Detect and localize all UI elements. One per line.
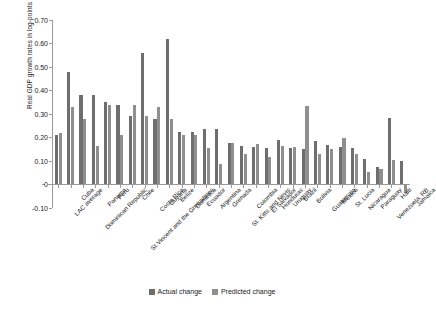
y-tick-label: -0.10 bbox=[14, 204, 48, 211]
bar bbox=[116, 105, 119, 184]
bar bbox=[367, 172, 370, 184]
bar bbox=[145, 116, 148, 184]
bar bbox=[277, 140, 280, 184]
bar bbox=[240, 146, 243, 184]
bar bbox=[400, 161, 403, 184]
legend-item: Predicted change bbox=[212, 288, 275, 295]
bar bbox=[363, 159, 366, 184]
bar bbox=[55, 135, 58, 184]
bar bbox=[293, 147, 296, 184]
bar-group bbox=[289, 20, 296, 185]
bar bbox=[281, 146, 284, 184]
bar bbox=[305, 106, 308, 184]
bar bbox=[67, 72, 70, 184]
y-tick-label: 0.60 bbox=[14, 40, 48, 47]
y-tick-label: 0.20 bbox=[14, 134, 48, 141]
bar bbox=[157, 107, 160, 184]
bar bbox=[252, 147, 255, 184]
bar bbox=[302, 149, 305, 184]
bar-group bbox=[191, 20, 198, 185]
bar-group bbox=[302, 20, 309, 185]
bar-group bbox=[363, 20, 370, 185]
bar-group bbox=[252, 20, 259, 185]
bar bbox=[59, 133, 62, 184]
bar bbox=[388, 118, 391, 184]
bar bbox=[231, 143, 234, 184]
bar bbox=[326, 145, 329, 184]
bar bbox=[120, 135, 123, 184]
bar-group bbox=[351, 20, 358, 185]
y-tick-label: 0.40 bbox=[14, 87, 48, 94]
bar bbox=[330, 149, 333, 184]
bar bbox=[194, 135, 197, 184]
bar bbox=[289, 148, 292, 184]
bar-series-container bbox=[52, 20, 410, 185]
bar-group bbox=[67, 20, 74, 185]
bar bbox=[265, 148, 268, 184]
chart-legend: Actual changePredicted change bbox=[0, 288, 424, 295]
bar-group bbox=[79, 20, 86, 185]
bar bbox=[256, 144, 259, 184]
bar-group bbox=[314, 20, 321, 185]
plot-area: 0.700.600.500.400.300.200.100-0.10 bbox=[52, 20, 410, 185]
bar bbox=[228, 143, 231, 184]
bar-group bbox=[215, 20, 222, 185]
y-tick-label: 0.30 bbox=[14, 110, 48, 117]
bar-group bbox=[240, 20, 247, 185]
x-tick-label: Bolivia bbox=[315, 186, 333, 204]
bar bbox=[170, 119, 173, 184]
bar-group bbox=[116, 20, 123, 185]
bar bbox=[153, 119, 156, 184]
bar-group bbox=[166, 20, 173, 185]
bar bbox=[79, 95, 82, 184]
bar bbox=[376, 167, 379, 184]
legend-swatch-icon bbox=[212, 289, 218, 295]
y-tick-label: 0.50 bbox=[14, 63, 48, 70]
bar-group bbox=[326, 20, 333, 185]
bar bbox=[219, 164, 222, 184]
bar-group bbox=[92, 20, 99, 185]
bar bbox=[104, 102, 107, 184]
bar bbox=[166, 39, 169, 184]
bar-group bbox=[265, 20, 272, 185]
bar-group bbox=[203, 20, 210, 185]
bar bbox=[351, 148, 354, 184]
bar-group bbox=[104, 20, 111, 185]
bar bbox=[339, 147, 342, 184]
bar bbox=[207, 148, 210, 184]
bar bbox=[342, 138, 345, 184]
bar bbox=[203, 129, 206, 184]
bar-group bbox=[228, 20, 235, 185]
bar-group bbox=[339, 20, 346, 185]
legend-label: Actual change bbox=[158, 288, 202, 295]
legend-label: Predicted change bbox=[221, 288, 275, 295]
bar-group bbox=[388, 20, 395, 185]
bar bbox=[268, 157, 271, 184]
y-tick-label: 0 bbox=[14, 181, 48, 188]
bar bbox=[83, 119, 86, 184]
bar bbox=[96, 146, 99, 184]
y-tick-label: 0.70 bbox=[14, 16, 48, 23]
bar bbox=[215, 129, 218, 184]
bar bbox=[182, 135, 185, 184]
bar-group bbox=[277, 20, 284, 185]
bar bbox=[244, 154, 247, 184]
legend-swatch-icon bbox=[149, 289, 155, 295]
bar bbox=[318, 154, 321, 184]
bar-group bbox=[178, 20, 185, 185]
bar bbox=[141, 53, 144, 184]
bar bbox=[392, 160, 395, 184]
bar bbox=[178, 132, 181, 184]
bar bbox=[108, 105, 111, 184]
bar bbox=[129, 116, 132, 184]
x-axis-labels: LAC averageCubaDominican RepublicPanamaP… bbox=[52, 186, 410, 266]
bar-group bbox=[55, 20, 62, 185]
bar bbox=[379, 169, 382, 184]
bar-group bbox=[400, 20, 407, 185]
y-tick-label: 0.10 bbox=[14, 157, 48, 164]
bar bbox=[355, 154, 358, 184]
bar-group bbox=[129, 20, 136, 185]
bar bbox=[314, 141, 317, 184]
bar-group bbox=[153, 20, 160, 185]
